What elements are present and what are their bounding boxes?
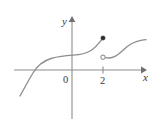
closed-endpoint-at-x-2	[101, 36, 105, 40]
x-tick-label-2: 2	[100, 75, 105, 86]
curve-left-branch	[20, 39, 103, 96]
open-endpoint-at-x-2	[101, 55, 105, 59]
y-axis-label: y	[61, 15, 67, 27]
y-axis-arrowhead	[69, 16, 76, 22]
function-graph-figure: y x 0 2	[0, 0, 157, 128]
coordinate-plane-svg: y x 0 2	[0, 0, 157, 128]
origin-label: 0	[63, 74, 68, 85]
curve-right-branch	[104, 40, 146, 58]
x-axis-label: x	[142, 71, 148, 83]
